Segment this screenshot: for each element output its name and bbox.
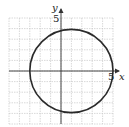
circle-graph: y 5 x 5: [0, 0, 129, 127]
x-tick-label: 5: [108, 71, 114, 82]
axes: [9, 8, 120, 124]
y-axis-label: y: [51, 2, 58, 13]
y-tick-label: 5: [53, 13, 59, 24]
x-axis-label: x: [119, 71, 125, 82]
